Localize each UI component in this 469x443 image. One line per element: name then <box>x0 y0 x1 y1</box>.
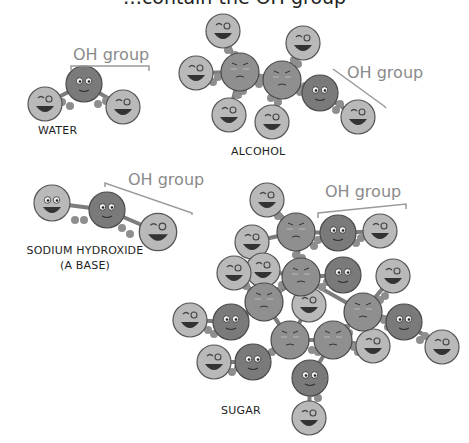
oh-label-sodium-hydroxide: OH group <box>128 170 204 189</box>
oh-label-sugar: OH group <box>325 182 401 201</box>
label-sodium-hydroxide-line2: (A BASE) <box>18 259 152 272</box>
oh-label-alcohol: OH group <box>347 63 423 82</box>
sugar-molecule <box>173 183 459 435</box>
oh-label-water: OH group <box>73 45 149 64</box>
sodium-hydroxide-molecule <box>34 183 192 251</box>
water-molecule <box>28 66 149 124</box>
label-sugar: SUGAR <box>221 404 261 417</box>
label-water: WATER <box>38 124 77 137</box>
label-sodium-hydroxide: SODIUM HYDROXIDE (A BASE) <box>18 244 152 272</box>
label-alcohol: ALCOHOL <box>231 145 285 158</box>
label-sodium-hydroxide-line1: SODIUM HYDROXIDE <box>18 244 152 257</box>
